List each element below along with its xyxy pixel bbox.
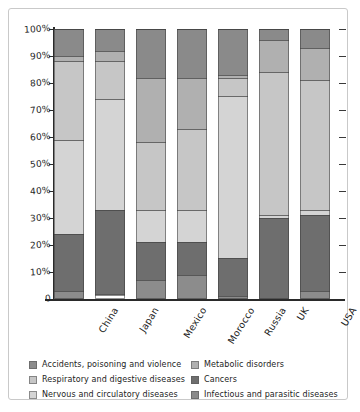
x-axis-label-china: China xyxy=(96,305,120,335)
y-axis-tick: 0 xyxy=(9,293,51,303)
bar-segment[interactable] xyxy=(300,48,330,80)
bar-segment[interactable] xyxy=(95,294,125,297)
right-axis-tick-mark xyxy=(339,191,346,192)
legend-item[interactable]: Accidents, poisoning and violence xyxy=(29,357,185,372)
bar-segment[interactable] xyxy=(218,78,248,97)
bar-segment[interactable] xyxy=(54,234,84,291)
y-axis-tick: 100% xyxy=(9,23,51,33)
legend-item[interactable]: Cancers xyxy=(191,372,338,387)
y-axis-tick: 80% xyxy=(9,77,51,87)
bar-segment[interactable] xyxy=(136,280,166,299)
y-axis-tick: 10% xyxy=(9,266,51,276)
bar-segment[interactable] xyxy=(259,72,289,215)
bar-segment[interactable] xyxy=(177,78,207,129)
x-axis-label-uk: UK xyxy=(294,305,311,322)
bar-segment[interactable] xyxy=(218,96,248,258)
bar-segment[interactable] xyxy=(54,291,84,299)
y-axis-tick: 70% xyxy=(9,104,51,114)
bar-segment[interactable] xyxy=(136,210,166,242)
bar-segment[interactable] xyxy=(218,296,248,299)
legend-swatch-icon xyxy=(29,361,37,369)
bar-segment[interactable] xyxy=(136,78,166,143)
legend-label: Nervous and circulatory diseases xyxy=(42,390,178,399)
legend-swatch-icon xyxy=(191,361,199,369)
right-axis-tick-mark xyxy=(339,110,346,111)
right-axis-tick-mark xyxy=(339,272,346,273)
y-axis-tick-mark xyxy=(49,299,57,300)
bar-segment[interactable] xyxy=(300,80,330,210)
right-axis-tick-mark xyxy=(339,218,346,219)
bar-segment[interactable] xyxy=(177,210,207,242)
right-axis-tick-mark xyxy=(339,164,346,165)
legend-item[interactable]: Metabolic disorders xyxy=(191,357,338,372)
legend-label: Infectious and parasitic diseases xyxy=(204,390,338,399)
right-axis-tick-mark xyxy=(339,56,346,57)
right-axis-tick-mark xyxy=(339,29,346,30)
bar-segment[interactable] xyxy=(136,242,166,280)
y-axis-tick: 40% xyxy=(9,185,51,195)
bar-segment[interactable] xyxy=(177,129,207,210)
bar-russia[interactable] xyxy=(218,29,248,299)
bar-segment[interactable] xyxy=(95,99,125,210)
legend-swatch-icon xyxy=(29,376,37,384)
legend-label: Cancers xyxy=(204,375,237,384)
bar-segment[interactable] xyxy=(136,142,166,210)
bar-segment[interactable] xyxy=(259,218,289,299)
right-axis-tick-mark xyxy=(339,137,346,138)
legend-item[interactable]: Nervous and circulatory diseases xyxy=(29,387,185,402)
bar-segment[interactable] xyxy=(177,29,207,78)
bar-segment[interactable] xyxy=(95,61,125,99)
x-axis-line xyxy=(45,299,345,301)
bar-japan[interactable] xyxy=(95,29,125,299)
legend-item[interactable]: Infectious and parasitic diseases xyxy=(191,387,338,402)
bar-segment[interactable] xyxy=(259,40,289,72)
x-axis-label-mexico: Mexico xyxy=(181,305,209,340)
bar-segment[interactable] xyxy=(218,258,248,296)
legend-item[interactable]: Respiratory and digestive diseases xyxy=(29,372,185,387)
bar-segment[interactable] xyxy=(95,29,125,51)
bar-morocco[interactable] xyxy=(177,29,207,299)
bar-segment[interactable] xyxy=(177,275,207,299)
legend-swatch-icon xyxy=(191,391,199,399)
bar-segment[interactable] xyxy=(95,210,125,294)
chart-legend: Accidents, poisoning and violenceMetabol… xyxy=(29,357,337,402)
bar-mexico[interactable] xyxy=(136,29,166,299)
bar-segment[interactable] xyxy=(54,61,84,139)
x-axis-label-japan: Japan xyxy=(137,305,161,334)
bar-uk[interactable] xyxy=(259,29,289,299)
bar-segment[interactable] xyxy=(95,51,125,62)
bar-segment[interactable] xyxy=(177,242,207,274)
bar-segment[interactable] xyxy=(54,29,84,56)
plot-area xyxy=(54,29,338,299)
chart-frame: 010%20%30%40%50%60%70%80%90%100% ChinaJa… xyxy=(8,8,348,400)
y-axis-tick-label: 100% xyxy=(24,23,51,35)
y-axis-tick: 20% xyxy=(9,239,51,249)
bar-segment[interactable] xyxy=(259,29,289,40)
y-axis-tick: 60% xyxy=(9,131,51,141)
y-axis-tick: 30% xyxy=(9,212,51,222)
bar-segment[interactable] xyxy=(218,29,248,75)
legend-label: Respiratory and digestive diseases xyxy=(42,375,185,384)
bar-segment[interactable] xyxy=(300,291,330,299)
bar-usa[interactable] xyxy=(300,29,330,299)
x-axis-label-usa: USA xyxy=(339,305,359,328)
legend-swatch-icon xyxy=(29,391,37,399)
right-axis-tick-mark xyxy=(339,245,346,246)
bar-segment[interactable] xyxy=(300,29,330,48)
bar-segment[interactable] xyxy=(54,140,84,235)
x-axis-label-russia: Russia xyxy=(262,305,288,338)
bar-segment[interactable] xyxy=(300,215,330,291)
x-axis-label-morocco: Morocco xyxy=(225,305,256,346)
y-axis-tick: 90% xyxy=(9,50,51,60)
y-axis-tick: 50% xyxy=(9,158,51,168)
bar-china[interactable] xyxy=(54,29,84,299)
legend-label: Metabolic disorders xyxy=(204,360,284,369)
legend-label: Accidents, poisoning and violence xyxy=(42,360,181,369)
bar-segment[interactable] xyxy=(136,29,166,78)
legend-swatch-icon xyxy=(191,376,199,384)
right-axis-tick-mark xyxy=(339,83,346,84)
